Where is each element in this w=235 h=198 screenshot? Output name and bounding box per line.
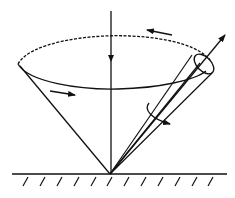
vertical-axis — [108, 11, 114, 174]
precession-arrow-back — [147, 30, 172, 35]
cone-left-edge — [20, 66, 110, 174]
precession-arrow-front — [50, 91, 75, 95]
spin-body — [110, 35, 225, 174]
precession-diagram — [0, 0, 235, 198]
precession-cone — [18, 36, 210, 174]
down-arrow-icon — [108, 55, 114, 62]
ground — [12, 174, 227, 186]
cone-rim-back — [18, 36, 210, 64]
spin-axis-arrow — [110, 35, 225, 174]
